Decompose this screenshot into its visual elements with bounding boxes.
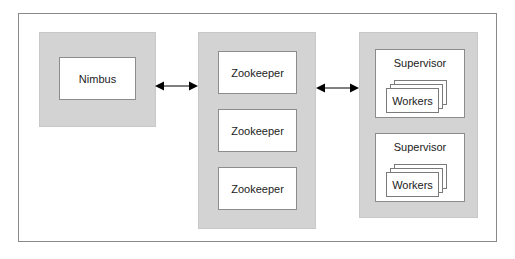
supervisor-label: Supervisor [376,141,464,153]
supervisor-label: Supervisor [376,57,464,69]
workers-node: Workers [386,88,439,113]
supervisors-panel: Supervisor Workers Supervisor Workers [359,32,478,218]
nimbus-panel: Nimbus [39,32,156,127]
workers-label: Workers [392,95,433,107]
zookeeper-label: Zookeeper [231,183,284,195]
bidirectional-arrow-icon [316,82,359,94]
supervisor-node: Supervisor Workers [375,49,465,118]
nimbus-node: Nimbus [59,57,136,100]
bidirectional-arrow-icon [155,80,198,92]
zookeeper-label: Zookeeper [231,125,284,137]
zookeeper-node: Zookeeper [218,109,297,152]
zookeeper-node: Zookeeper [218,167,297,210]
workers-node: Workers [386,172,439,197]
zookeeper-label: Zookeeper [231,67,284,79]
workers-label: Workers [392,179,433,191]
supervisor-node: Supervisor Workers [375,133,465,202]
zookeeper-cluster-panel: Zookeeper Zookeeper Zookeeper [198,32,316,229]
zookeeper-node: Zookeeper [218,51,297,94]
nimbus-label: Nimbus [79,73,116,85]
